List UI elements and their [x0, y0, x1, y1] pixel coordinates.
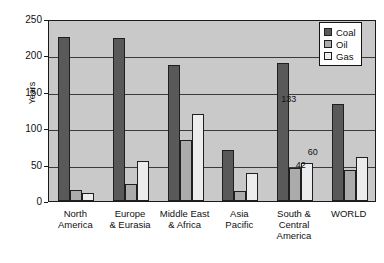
legend-item-oil[interactable]: Oil: [324, 38, 356, 50]
gridline: [49, 167, 375, 168]
legend-swatch-icon: [324, 40, 332, 48]
chart-legend: CoalOilGas: [319, 22, 362, 66]
bar-group: [277, 21, 313, 201]
legend-swatch-icon: [324, 28, 332, 36]
gridline: [49, 94, 375, 95]
bar-coal: [277, 63, 289, 201]
legend-label: Gas: [336, 51, 353, 62]
bar-chart-figure: Years 050100150200250 North AmericaEurop…: [0, 0, 384, 263]
category-label: Asia Pacific: [212, 208, 267, 230]
category-label: Europe & Eurasia: [103, 208, 158, 230]
bar-oil: [70, 190, 82, 201]
bar-coal: [222, 150, 234, 201]
bar-oil: [125, 184, 137, 201]
bar-value-label: 133: [274, 94, 304, 104]
bar-group: [168, 21, 204, 201]
y-axis-tick-label: 200: [2, 50, 42, 61]
y-axis-tick-label: 0: [2, 196, 42, 207]
bar-value-label: 42: [286, 160, 316, 170]
bar-coal: [168, 65, 180, 201]
bar-coal: [113, 38, 125, 201]
bar-value-label: 60: [298, 147, 328, 157]
legend-item-gas[interactable]: Gas: [324, 50, 356, 62]
y-axis-tick-label: 100: [2, 123, 42, 134]
y-axis-tick-mark: [44, 202, 48, 203]
bar-gas: [246, 173, 258, 201]
category-label: North America: [48, 208, 103, 230]
bar-coal: [58, 37, 70, 201]
category-label: South & Central America: [267, 208, 322, 241]
bar-gas: [137, 161, 149, 201]
legend-item-coal[interactable]: Coal: [324, 26, 356, 38]
bar-oil: [180, 140, 192, 201]
category-label: Middle East & Africa: [157, 208, 212, 230]
bar-group: [222, 21, 258, 201]
y-axis-tick-label: 150: [2, 87, 42, 98]
bar-coal: [332, 104, 344, 201]
bar-group: [58, 21, 94, 201]
y-axis-tick-label: 250: [2, 14, 42, 25]
bar-gas: [82, 193, 94, 201]
bar-oil: [344, 170, 356, 201]
category-label: WORLD: [321, 208, 376, 219]
bar-gas: [356, 157, 368, 201]
bar-group: [113, 21, 149, 201]
legend-label: Oil: [336, 39, 348, 50]
legend-label: Coal: [336, 27, 356, 38]
legend-swatch-icon: [324, 52, 332, 60]
y-axis-tick-label: 50: [2, 160, 42, 171]
bar-gas: [192, 114, 204, 201]
bar-oil: [289, 168, 301, 201]
bar-oil: [234, 191, 246, 201]
gridline: [49, 130, 375, 131]
